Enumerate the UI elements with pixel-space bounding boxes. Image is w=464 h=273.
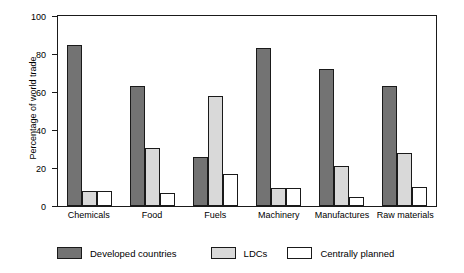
y-axis-tick: 0 xyxy=(52,206,58,207)
bar xyxy=(208,96,223,206)
bar xyxy=(319,69,334,206)
bar xyxy=(412,187,427,206)
y-axis-tick-label: 60 xyxy=(36,88,46,98)
bar-group xyxy=(373,16,436,206)
bar xyxy=(160,193,175,206)
light-gray-swatch xyxy=(211,247,236,259)
bar xyxy=(286,188,301,206)
bar xyxy=(382,86,397,206)
y-axis-tick-label: 0 xyxy=(41,202,46,212)
bar-groups xyxy=(58,16,436,206)
y-axis-tick-label: 100 xyxy=(31,12,46,22)
legend-label: Developed countries xyxy=(90,248,177,259)
bar xyxy=(223,174,238,206)
legend-item: LDCs xyxy=(211,247,268,259)
bar xyxy=(145,148,160,206)
x-axis-labels: ChemicalsFoodFuelsMachineryManufacturesR… xyxy=(57,210,437,226)
bar xyxy=(97,191,112,206)
x-axis-label: Fuels xyxy=(184,210,247,226)
x-axis-label: Raw materials xyxy=(374,210,437,226)
bar-group xyxy=(121,16,184,206)
x-axis-label: Food xyxy=(120,210,183,226)
bar-group xyxy=(184,16,247,206)
bar-group xyxy=(310,16,373,206)
x-axis-label: Manufactures xyxy=(310,210,373,226)
bar-group xyxy=(58,16,121,206)
bar xyxy=(334,166,349,206)
y-axis-tick-label: 40 xyxy=(36,126,46,136)
bar xyxy=(397,153,412,206)
plot-area: 020406080100 xyxy=(57,15,437,207)
legend-item: Centrally planned xyxy=(287,247,394,259)
bar xyxy=(82,191,97,206)
legend-label: Centrally planned xyxy=(320,248,394,259)
legend-item: Developed countries xyxy=(57,247,177,259)
legend-label: LDCs xyxy=(244,248,268,259)
y-axis-tick-label: 20 xyxy=(36,164,46,174)
white-swatch xyxy=(287,247,312,259)
bar xyxy=(271,188,286,206)
bar xyxy=(130,86,145,206)
dark-gray-swatch xyxy=(57,247,82,259)
bar xyxy=(349,197,364,207)
bar xyxy=(193,157,208,206)
bar xyxy=(256,48,271,206)
x-axis-label: Machinery xyxy=(247,210,310,226)
x-axis-label: Chemicals xyxy=(57,210,120,226)
bar xyxy=(67,45,82,207)
bar-chart: Percentage of world trade 020406080100 C… xyxy=(0,0,464,273)
chart-legend: Developed countriesLDCsCentrally planned xyxy=(57,242,457,264)
bar-group xyxy=(247,16,310,206)
y-axis-tick-label: 80 xyxy=(36,50,46,60)
